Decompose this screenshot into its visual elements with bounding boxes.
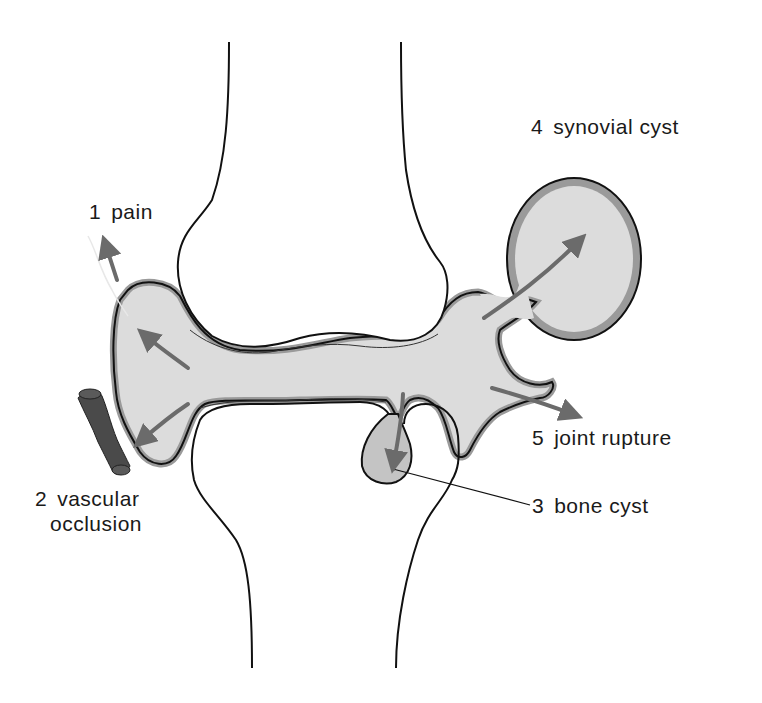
- arrow-pain-icon: [106, 246, 117, 280]
- bone-cyst-leader-line: [393, 469, 530, 505]
- label-bone-cyst: 3bone cyst: [532, 494, 649, 518]
- femur-outline: [178, 42, 448, 347]
- label-vascular-occlusion-line2: occlusion: [50, 512, 142, 536]
- label-synovial-cyst: 4synovial cyst: [531, 115, 679, 139]
- bone-cyst: [362, 414, 412, 483]
- tibia-outline: [192, 402, 459, 668]
- label-joint-rupture: 5joint rupture: [532, 426, 672, 450]
- diagram-illustration: [0, 0, 762, 703]
- knee-joint-diagram: 1pain 2vascular occlusion 3bone cyst 4sy…: [0, 0, 762, 703]
- label-pain: 1pain: [89, 200, 153, 224]
- label-vascular-occlusion: 2vascular: [35, 487, 139, 511]
